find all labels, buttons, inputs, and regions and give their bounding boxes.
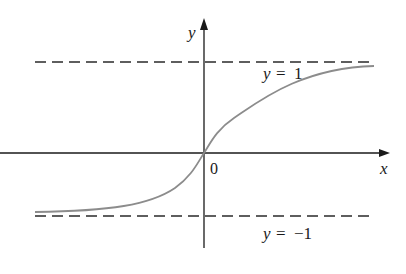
svg-text:y: y [261, 64, 271, 83]
x-axis-arrow-icon [379, 149, 390, 157]
x-axis-label: x [379, 159, 388, 178]
svg-text:=: = [276, 224, 286, 243]
origin-label: 0 [210, 160, 218, 177]
asymptote-upper-label: y = 1 [261, 64, 303, 83]
svg-text:=: = [276, 64, 286, 83]
svg-text:y: y [261, 224, 271, 243]
graph-canvas: y x 0 y = 1 y = −1 [0, 0, 406, 274]
y-axis-arrow-icon [200, 18, 208, 30]
asymptote-lower-label: y = −1 [261, 224, 312, 243]
svg-text:1: 1 [294, 64, 303, 83]
y-axis-label: y [186, 23, 196, 42]
svg-text:−1: −1 [294, 224, 312, 243]
